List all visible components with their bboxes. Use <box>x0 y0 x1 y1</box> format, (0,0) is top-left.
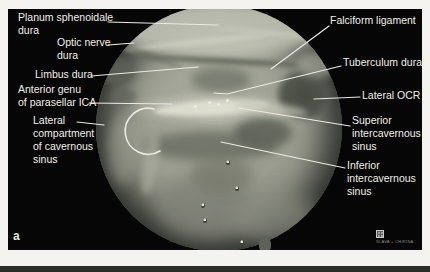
publisher-watermark: SLAVA + CHIRINA <box>376 230 412 244</box>
label-optic-nerve-dura: Optic nerve dura <box>57 36 111 62</box>
tissue-dot <box>226 160 230 165</box>
label-limbus-dura: Limbus dura <box>35 68 93 81</box>
tissue-texture-blob <box>296 51 340 77</box>
tissue-highlight-speck <box>194 105 197 108</box>
tissue-texture-blob <box>234 118 292 148</box>
tissue-dot <box>203 218 207 223</box>
tissue-dot <box>235 186 239 191</box>
label-tuberculum-dura: Tuberculum dura <box>343 56 422 69</box>
label-falciform-ligament: Falciform ligament <box>330 14 416 27</box>
tissue-texture-blob <box>110 87 136 105</box>
tissue-highlight-speck <box>226 99 229 102</box>
label-superior-intercavernous-sinus: Superior intercavernous sinus <box>352 114 421 153</box>
tissue-texture-blob <box>231 190 316 242</box>
tissue-texture-blob <box>108 115 138 185</box>
publisher-logo-icon <box>376 230 384 238</box>
label-lateral-ocr: Lateral OCR <box>362 89 420 102</box>
label-lateral-compartment-of-cavernous-sinus: Lateral compartment of cavernous sinus <box>33 114 94 166</box>
endoscopic-view <box>96 9 342 250</box>
tissue-protrusion <box>259 239 271 250</box>
figure-page: Planum sphenoidale dura Optic nerve dura… <box>0 0 430 272</box>
label-inferior-intercavernous-sinus: Inferior intercavernous sinus <box>347 159 416 198</box>
label-planum-sphenoidale-dura: Planum sphenoidale dura <box>18 11 113 37</box>
panel-letter: a <box>13 229 20 243</box>
label-anterior-genu-of-parasellar-ica: Anterior genu of parasellar ICA <box>18 83 96 109</box>
publisher-watermark-text: SLAVA + CHIRINA <box>376 240 412 244</box>
tissue-highlight-speck <box>217 103 220 106</box>
tissue-texture-blob <box>191 67 251 93</box>
tissue-texture-blob <box>138 132 163 196</box>
tissue-dot <box>201 203 205 208</box>
tissue-texture-blob <box>191 157 253 193</box>
tissue-dot <box>240 240 244 245</box>
tissue-highlight-speck <box>208 101 211 104</box>
next-panel-edge <box>0 266 430 272</box>
